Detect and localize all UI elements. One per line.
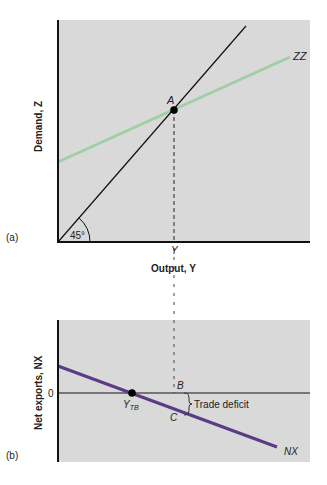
- panel-b-tag: (b): [6, 450, 18, 461]
- x-axis-label: Output, Y: [151, 263, 196, 274]
- y-axis-label-a: Demand, Z: [33, 101, 44, 152]
- trade-deficit-label: Trade deficit: [194, 399, 249, 410]
- panel-a-tag: (a): [6, 232, 18, 243]
- panel-b-background: [58, 320, 310, 462]
- angle-label: 45°: [70, 230, 85, 241]
- point-c-label: C: [170, 412, 178, 423]
- zz-label: ZZ: [292, 50, 308, 62]
- x-tick-y: Y: [171, 245, 179, 256]
- panel-a-background: [58, 20, 310, 242]
- y-axis-label-b: Net exports, NX: [33, 355, 44, 430]
- nx-label: NX: [284, 446, 298, 457]
- equilibrium-point-a: [170, 106, 178, 114]
- trade-balance-point: [128, 389, 136, 397]
- zero-label: 0: [48, 388, 54, 399]
- diagram-canvas: A ZZ 45° (a) Y Output, Y Demand, Z 0 YTB…: [0, 0, 327, 485]
- point-a-label: A: [166, 94, 174, 106]
- point-b-label: B: [177, 380, 184, 391]
